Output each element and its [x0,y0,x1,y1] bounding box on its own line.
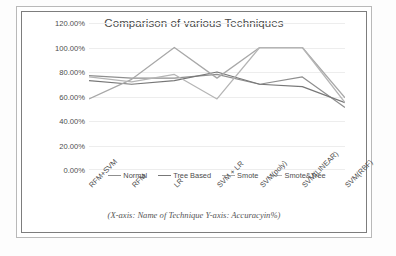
y-axis-tick-label: 0.00% [63,166,85,175]
legend-item-tree-based[interactable]: Tree Based [158,171,211,180]
y-axis-tick-label: 20.00% [59,141,85,150]
screenshot-page: Comparison of various Techniques 120.00%… [0,0,396,256]
series-line-normal [89,74,345,107]
legend-line-swatch [158,175,171,176]
y-axis-tick-label: 120.00% [55,19,85,28]
legend-label: Smote [237,171,258,180]
y-axis-tick-label: 80.00% [59,68,85,77]
y-axis: 120.00%100.00%80.00%60.00%40.00%20.00%0.… [44,23,88,170]
plot-area [89,23,345,170]
chart-container[interactable]: Comparison of various Techniques 120.00%… [21,11,367,233]
series-line-smote [89,48,345,99]
axis-caption: (X-axis: Name of Technique Y-axis: Accur… [22,210,366,220]
y-axis-tick-label: 40.00% [59,117,85,126]
legend-line-swatch [108,175,121,176]
x-axis: RFM+SVMRFMLRSVM + LRSVM(poly)SVM(LINEAR)… [89,183,345,229]
series-lines [89,23,345,170]
plot-region: 120.00%100.00%80.00%60.00%40.00%20.00%0.… [44,23,346,237]
y-axis-tick-label: 60.00% [59,92,85,101]
y-axis-tick-label: 100.00% [55,43,85,52]
